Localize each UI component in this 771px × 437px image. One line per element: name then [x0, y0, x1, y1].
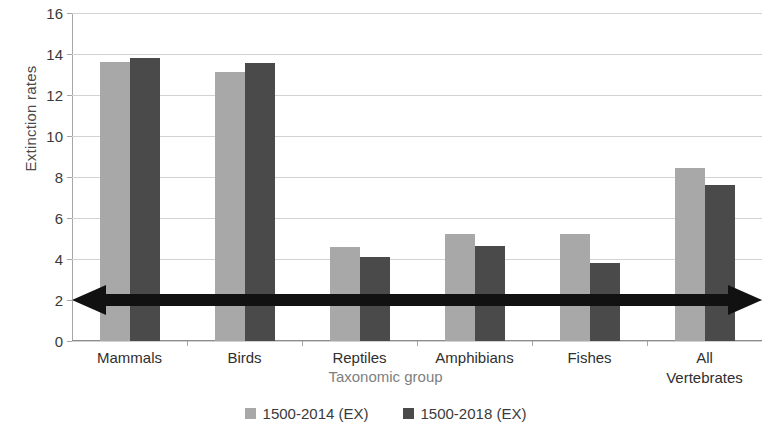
- x-axis-category-label: Mammals: [72, 348, 187, 368]
- x-axis-category-label: Fishes: [532, 348, 647, 368]
- y-tick-label: 4: [55, 251, 63, 268]
- y-axis-title: Extinction rates: [22, 29, 39, 209]
- gridline: [72, 300, 762, 301]
- y-tick-label: 12: [46, 87, 63, 104]
- x-axis-title: Taxonomic group: [0, 368, 771, 385]
- y-tick-label: 10: [46, 128, 63, 145]
- gridline: [72, 54, 762, 55]
- x-axis-category-label: Reptiles: [302, 348, 417, 368]
- x-tick-mark: [302, 341, 303, 346]
- bar: [360, 257, 390, 341]
- bar: [445, 234, 475, 341]
- y-tick-mark: [67, 177, 72, 178]
- bar: [245, 63, 275, 341]
- y-tick-mark: [67, 13, 72, 14]
- x-tick-mark: [417, 341, 418, 346]
- chart-legend: 1500-2014 (EX)1500-2018 (EX): [0, 405, 771, 422]
- y-tick-mark: [67, 218, 72, 219]
- legend-item[interactable]: 1500-2018 (EX): [403, 405, 527, 422]
- legend-swatch-icon: [403, 408, 414, 419]
- gridline: [72, 95, 762, 96]
- legend-item[interactable]: 1500-2014 (EX): [245, 405, 369, 422]
- x-tick-mark: [187, 341, 188, 346]
- x-axis-category-label: Birds: [187, 348, 302, 368]
- y-tick-mark: [67, 300, 72, 301]
- gridline: [72, 13, 762, 14]
- y-tick-mark: [67, 341, 72, 342]
- y-tick-label: 0: [55, 333, 63, 350]
- bar-chart: Extinction rates 0246810121416 MammalsBi…: [0, 0, 771, 437]
- bar: [590, 263, 620, 341]
- gridline: [72, 136, 762, 137]
- gridline: [72, 259, 762, 260]
- x-tick-mark: [647, 341, 648, 346]
- y-tick-label: 6: [55, 210, 63, 227]
- bar: [675, 168, 705, 341]
- legend-label: 1500-2018 (EX): [421, 405, 527, 422]
- bar: [705, 185, 735, 341]
- bar: [475, 246, 505, 341]
- y-tick-label: 8: [55, 169, 63, 186]
- legend-label: 1500-2014 (EX): [263, 405, 369, 422]
- bar: [215, 72, 245, 341]
- y-tick-mark: [67, 259, 72, 260]
- y-tick-mark: [67, 95, 72, 96]
- plot-area: 0246810121416: [72, 13, 762, 341]
- x-axis-category-label: Amphibians: [417, 348, 532, 368]
- gridline: [72, 218, 762, 219]
- gridline: [72, 177, 762, 178]
- legend-swatch-icon: [245, 408, 256, 419]
- bar: [100, 62, 130, 341]
- x-tick-mark: [532, 341, 533, 346]
- y-tick-label: 16: [46, 5, 63, 22]
- bar: [130, 58, 160, 341]
- bar: [560, 234, 590, 341]
- y-tick-label: 2: [55, 292, 63, 309]
- y-tick-mark: [67, 54, 72, 55]
- bar: [330, 247, 360, 341]
- y-tick-label: 14: [46, 46, 63, 63]
- y-tick-mark: [67, 136, 72, 137]
